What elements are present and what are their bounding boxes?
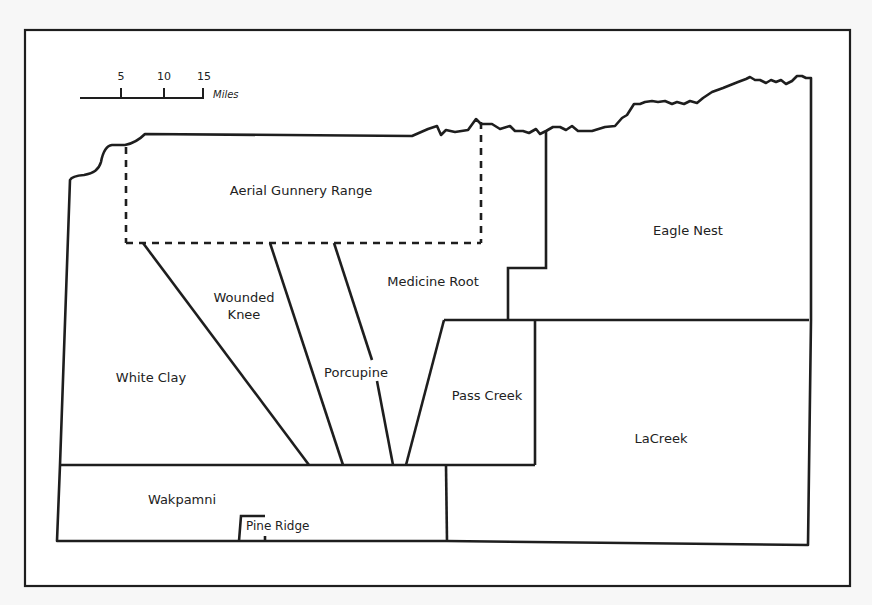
label-porcupine: Porcupine <box>324 364 388 381</box>
map-frame: 5 10 15 Miles Aerial Gunnery Range Eagle… <box>0 0 872 605</box>
label-wakpamni: Wakpamni <box>148 491 216 508</box>
label-aerial-gunnery-range: Aerial Gunnery Range <box>230 182 373 199</box>
label-eagle-nest: Eagle Nest <box>653 222 723 239</box>
label-pine-ridge: Pine Ridge <box>246 519 309 533</box>
district-map <box>0 0 872 605</box>
label-lacreek: LaCreek <box>635 430 688 447</box>
label-wounded-knee: Wounded Knee <box>213 289 274 323</box>
scale-tick-10: 10 <box>157 70 171 83</box>
label-medicine-root: Medicine Root <box>387 273 479 290</box>
scale-tick-15: 15 <box>197 70 211 83</box>
scale-tick-5: 5 <box>118 70 125 83</box>
scale-unit: Miles <box>213 89 239 100</box>
label-white-clay: White Clay <box>116 369 186 386</box>
label-pass-creek: Pass Creek <box>452 387 523 404</box>
